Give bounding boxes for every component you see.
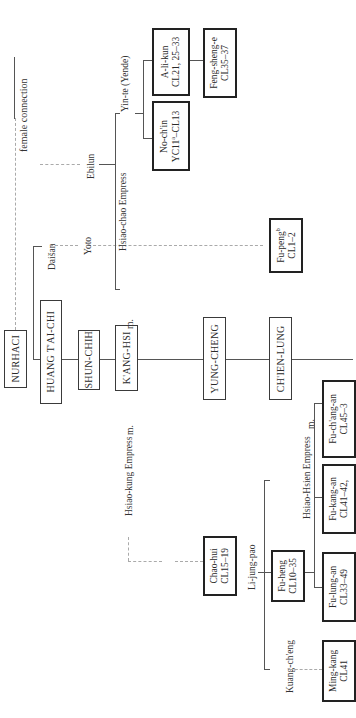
fu-kang-an-tick	[314, 497, 322, 498]
hsiao-chao-label: Hsiao-chao Empress	[118, 171, 128, 251]
fu-heng-children-tick	[305, 572, 314, 573]
ebilun-dash	[40, 164, 80, 165]
li-jung-pao-label: Li-jung-pao	[247, 540, 257, 590]
person-label: Fu-ch'ang-an CL45–3	[328, 394, 350, 444]
daisan-arrow-line	[33, 246, 42, 247]
yinte-child-tick-2	[143, 138, 152, 139]
ming-kang-dash	[290, 669, 322, 670]
person-box-chao-hui: Chao-hui CL15–19	[203, 536, 237, 596]
person-box-fu-lung-an: Fu-lung-an CL33–49	[322, 552, 356, 622]
emperor-name: K'ANG-HSI	[121, 332, 133, 385]
emperor-box-nurhaci: NURHACI	[4, 330, 27, 388]
hsiao-kung-label: Hsiao-kung Empress	[124, 436, 134, 516]
person-label: No-ch'in YC11a–CL13	[160, 110, 183, 161]
daisan-dash	[50, 245, 78, 246]
emperor-box-kang-hsi: K'ANG-HSI	[115, 325, 138, 391]
li-jung-pao-tick-bottom	[264, 669, 270, 670]
emperor-name: HUANG T'AI-CHI	[45, 311, 57, 393]
emperor-name: CH'IEN-LUNG	[275, 325, 287, 392]
female-connection-label: female connection	[18, 68, 30, 152]
emperor-box-shun-chih: SHUN-CHIH	[78, 330, 100, 390]
person-label: Fu-heng CL10–35	[277, 558, 299, 594]
yinte-label: Yin-te (Yende)	[120, 46, 130, 112]
ebilun-line	[99, 164, 115, 165]
yoto-label: Yoto	[83, 231, 93, 255]
person-label: Feng-sheng-e CL35–37	[209, 37, 231, 89]
emperor-name: NURHACI	[10, 335, 22, 383]
person-box-ming-kang: Ming-kang CL41	[322, 640, 356, 702]
person-label: A-li-kun CL21, 25–33	[160, 37, 182, 87]
person-box-fu-heng: Fu-heng CL10–35	[271, 550, 305, 602]
emperor-box-yung-cheng: YUNG-CHENG	[203, 317, 226, 400]
hsiao-chao-vertical	[115, 113, 116, 290]
emperor-box-chien-lung: CH'IEN-LUNG	[269, 317, 292, 400]
yinte-top-tick	[115, 113, 120, 114]
hsiao-hsien-label: Hsiao-Hsien Empress	[302, 441, 312, 519]
yinte-child-tick-1	[143, 60, 152, 61]
fu-heng-children-vertical	[314, 403, 315, 588]
chao-hui-dash	[175, 561, 203, 562]
yinte-children-vertical	[143, 60, 144, 139]
person-box-fu-peng: Fu-pengb CL1–2	[269, 218, 303, 273]
fu-lung-an-tick	[314, 587, 322, 588]
person-label: Fu-lung-an CL33–49	[328, 566, 350, 608]
nurhaci-daisan-line	[33, 246, 34, 360]
person-label: Ming-kang CL41	[328, 650, 350, 692]
emperor-name: YUNG-CHENG	[209, 324, 221, 394]
daisan-label: Daišan	[47, 236, 57, 270]
person-box-feng-sheng-e: Feng-sheng-e CL35–37	[203, 28, 237, 98]
hsiao-kung-dash-vertical	[128, 537, 129, 561]
person-box-fu-chang-an: Fu-ch'ang-an CL45–3	[322, 380, 356, 458]
kuang-cheng-label: Kuang-ch'eng	[285, 637, 295, 693]
a-li-kun-feng-line	[190, 60, 203, 61]
ebilun-label: Ebilun	[86, 145, 96, 179]
marriage-label-lower: m.	[125, 423, 135, 435]
female-connection-tick	[14, 57, 15, 119]
person-box-fu-kang-an: Fu-kang-an CL41–42,	[322, 464, 356, 534]
marriage-label-upper: m.	[125, 317, 135, 329]
fu-heng-tick	[258, 572, 271, 573]
hsiao-kung-dash	[128, 561, 162, 562]
li-jung-pao-vertical	[264, 480, 265, 670]
emperor-name: SHUN-CHIH	[83, 331, 95, 389]
hsiao-chao-tick	[115, 289, 120, 290]
person-label: Chao-hui CL15–19	[209, 548, 231, 584]
person-label: Fu-kang-an CL41–42,	[328, 477, 350, 521]
female-connection-dash-vertical	[15, 118, 16, 330]
emperor-box-huang-tai-chi: HUANG T'AI-CHI	[40, 300, 62, 404]
person-box-no-chin: No-ch'in YC11a–CL13	[152, 101, 190, 171]
person-label: Fu-pengb CL1–2	[275, 228, 298, 263]
person-box-a-li-kun: A-li-kun CL21, 25–33	[152, 28, 190, 96]
li-jung-pao-tick-top	[264, 480, 270, 481]
fu-chang-an-tick	[314, 403, 322, 404]
